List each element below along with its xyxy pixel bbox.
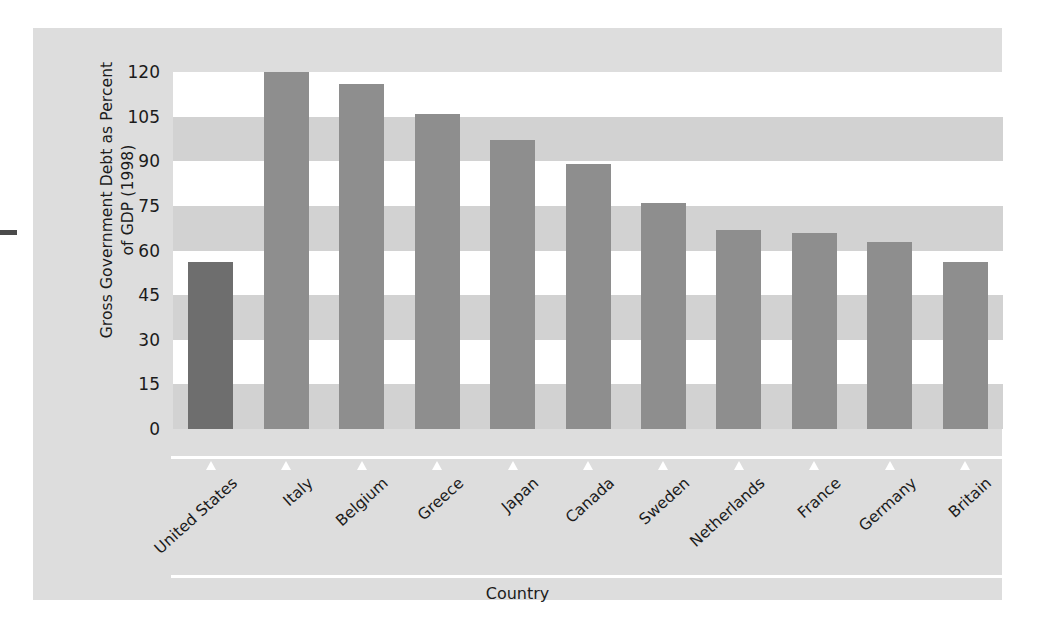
bar <box>792 233 837 429</box>
bar <box>566 164 611 429</box>
scanned-page: Gross Government Debt as Percent of GDP … <box>0 0 1044 627</box>
x-tick-marker <box>734 461 744 470</box>
y-tick-label: 45 <box>118 285 160 305</box>
x-category-label: France <box>794 474 844 522</box>
bar <box>490 140 535 429</box>
y-tick-label: 120 <box>118 62 160 82</box>
x-category-label: Germany <box>855 474 920 535</box>
x-category-label: Greece <box>414 474 467 524</box>
bar <box>716 230 761 429</box>
x-tick-marker <box>432 461 442 470</box>
x-tick-marker <box>508 461 518 470</box>
bar <box>339 84 384 429</box>
plot-area <box>173 72 1003 429</box>
x-axis-rule <box>171 575 1009 578</box>
x-category-label: Netherlands <box>687 474 769 551</box>
x-axis-title: Country <box>33 584 1002 603</box>
x-category-label: Belgium <box>332 474 391 530</box>
y-tick-label: 0 <box>118 419 160 439</box>
x-axis-baseline <box>171 456 1009 459</box>
x-category-label: Italy <box>279 474 316 510</box>
chart-figure-panel: Gross Government Debt as Percent of GDP … <box>33 28 1002 600</box>
y-tick-label: 105 <box>118 107 160 127</box>
x-tick-marker <box>206 461 216 470</box>
x-tick-marker <box>809 461 819 470</box>
bar <box>641 203 686 429</box>
y-tick-label: 60 <box>118 241 160 261</box>
crop-registration-tick <box>0 230 17 235</box>
x-category-label: Britain <box>945 474 995 522</box>
x-tick-marker <box>960 461 970 470</box>
x-tick-marker <box>583 461 593 470</box>
bar <box>867 242 912 429</box>
x-tick-marker <box>658 461 668 470</box>
y-tick-label: 90 <box>118 151 160 171</box>
x-category-label: Canada <box>562 474 618 527</box>
bars-layer <box>173 72 1003 429</box>
x-category-label: United States <box>151 474 241 558</box>
bar <box>188 262 233 429</box>
x-category-label: Japan <box>498 474 542 516</box>
x-tick-marker <box>885 461 895 470</box>
bar <box>264 72 309 429</box>
y-tick-label: 15 <box>118 374 160 394</box>
x-category-label: Sweden <box>636 474 694 528</box>
y-tick-label: 30 <box>118 330 160 350</box>
y-tick-label: 75 <box>118 196 160 216</box>
bar <box>415 114 460 429</box>
y-axis-tick-labels: 0153045607590105120 <box>108 28 160 600</box>
x-tick-marker <box>357 461 367 470</box>
bar <box>943 262 988 429</box>
x-tick-marker <box>281 461 291 470</box>
